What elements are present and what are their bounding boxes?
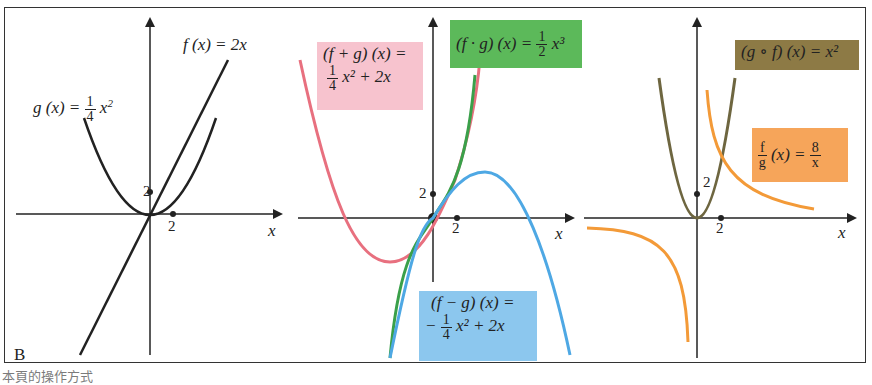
x-tick-2: 2 <box>716 220 724 237</box>
panel-label: B <box>14 345 25 365</box>
x-axis-label: x <box>555 225 563 244</box>
product-label-box: (f · g) (x) = 12 x³ <box>450 20 582 68</box>
x-axis-label: x <box>268 222 276 241</box>
sum-label-box: (f + g) (x) = 14 x² + 2x <box>317 42 423 110</box>
y-tick-2: 2 <box>143 183 151 200</box>
panel3-axes <box>584 22 852 358</box>
x-tick-2: 2 <box>168 218 176 235</box>
quotient-label-box: fg (x) = 8x <box>752 128 848 182</box>
composition-label-box: (g ∘ f) (x) = x² <box>735 40 859 70</box>
label-g-prefix: g (x) = <box>33 98 80 117</box>
label-f: f (x) = 2x <box>183 36 247 55</box>
y-tick-2: 2 <box>419 185 427 202</box>
y-tick-2: 2 <box>703 174 711 191</box>
difference-label-box: (f − g) (x) = − 14 x² + 2x <box>419 291 537 361</box>
caption-fragment: 本頁的操作方式 <box>2 366 93 385</box>
panel3-curves <box>587 78 814 342</box>
label-g: g (x) = 14 x2 <box>33 95 113 124</box>
x-tick-2: 2 <box>452 220 460 237</box>
x-axis-label: x <box>838 224 846 243</box>
fraction: 14 <box>85 95 96 124</box>
